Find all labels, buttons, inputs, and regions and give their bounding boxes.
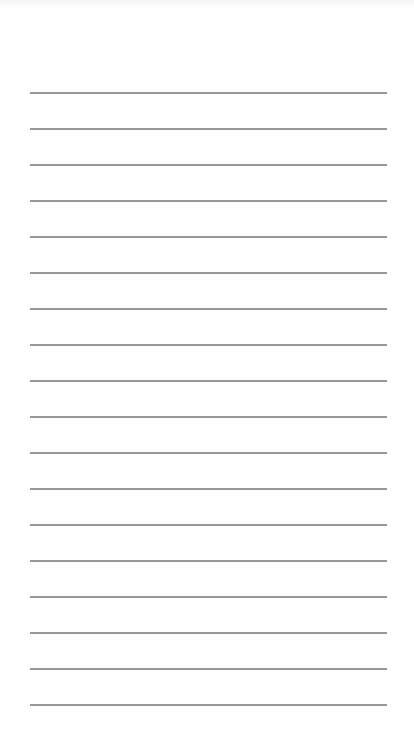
ruled-line[interactable] <box>30 272 387 274</box>
ruled-line[interactable] <box>30 380 387 382</box>
ruled-line[interactable] <box>30 452 387 454</box>
lined-paper[interactable] <box>0 0 414 750</box>
ruled-line[interactable] <box>30 164 387 166</box>
ruled-line[interactable] <box>30 344 387 346</box>
ruled-line[interactable] <box>30 128 387 130</box>
ruled-line[interactable] <box>30 704 387 706</box>
ruled-line[interactable] <box>30 488 387 490</box>
ruled-line[interactable] <box>30 524 387 526</box>
ruled-line[interactable] <box>30 560 387 562</box>
ruled-line[interactable] <box>30 632 387 634</box>
ruled-line[interactable] <box>30 236 387 238</box>
ruled-line[interactable] <box>30 668 387 670</box>
ruled-line[interactable] <box>30 308 387 310</box>
ruled-line[interactable] <box>30 200 387 202</box>
ruled-line[interactable] <box>30 92 387 94</box>
ruled-line[interactable] <box>30 596 387 598</box>
ruled-line[interactable] <box>30 416 387 418</box>
